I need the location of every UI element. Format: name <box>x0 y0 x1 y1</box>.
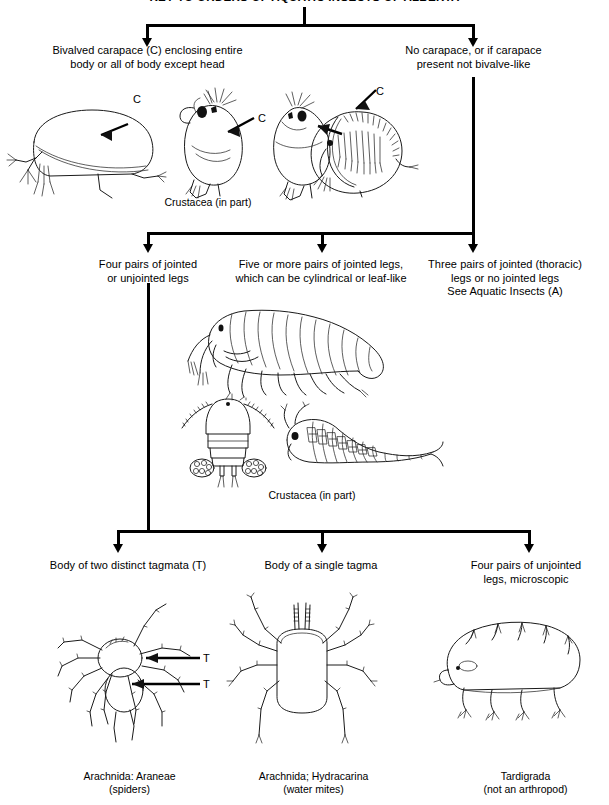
level3-left-arrow <box>113 544 123 553</box>
level3-right-arrow <box>524 544 534 553</box>
level2-stem <box>472 77 475 235</box>
level2-left-label: Four pairs of jointed or unjointed legs <box>72 258 224 285</box>
copepod-figure <box>180 392 280 488</box>
level3-left-label: Body of two distinct tagmata (T) <box>33 559 223 573</box>
level3-left-result: Arachnida: Araneae (spiders) <box>42 770 217 796</box>
level3-stem <box>147 283 150 533</box>
dichotomous-key-diagram: KEY TO ORDERS OF AQUATIC INSECTS OF ALBE… <box>0 0 609 805</box>
carapace-mark-3: C <box>376 86 384 97</box>
level3-crossbar <box>117 530 531 533</box>
root-stem <box>303 7 306 25</box>
level3-right-label: Four pairs of unjointed legs, microscopi… <box>456 559 596 586</box>
level2-middle-result: Crustacea (in part) <box>222 489 402 502</box>
level2-middle-label: Five or more pairs of jointed legs, whic… <box>221 258 421 285</box>
water-mite-figure <box>225 595 380 755</box>
tagma-mark-1: T <box>203 653 210 664</box>
level3-middle-label: Body of a single tagma <box>246 559 396 573</box>
cladoceran-figure-a <box>170 88 256 200</box>
level1-left-result: Crustacea (in part) <box>118 196 298 209</box>
level1-right-label: No carapace, or if carapace present not … <box>386 44 561 71</box>
ostracod-figure <box>6 90 166 200</box>
level2-left-arrow <box>143 244 153 253</box>
level1-crossbar <box>146 24 475 27</box>
spider-figure <box>58 596 208 754</box>
tardigrade-figure <box>430 612 590 722</box>
level3-middle-result: Arachnida; Hydracarina (water mites) <box>226 770 401 796</box>
amphipod-figure <box>188 305 408 400</box>
level2-crossbar <box>147 232 475 235</box>
carapace-mark-1: C <box>133 94 141 105</box>
tagma-mark-2: T <box>203 679 210 690</box>
level3-mid-arrow <box>317 544 327 553</box>
level1-left-label: Bivalved carapace (C) enclosing entire b… <box>30 44 265 71</box>
level2-right-arrow <box>468 244 478 253</box>
page-title: KEY TO ORDERS OF AQUATIC INSECTS OF ALBE… <box>0 0 609 3</box>
level2-right-label: Three pairs of jointed (thoracic) legs o… <box>410 258 600 299</box>
conchostracan-figure <box>300 95 420 200</box>
level2-mid-arrow <box>317 244 327 253</box>
fairy-shrimp-figure <box>273 404 443 486</box>
level3-right-result: Tardigrada (not an arthropod) <box>438 770 609 796</box>
